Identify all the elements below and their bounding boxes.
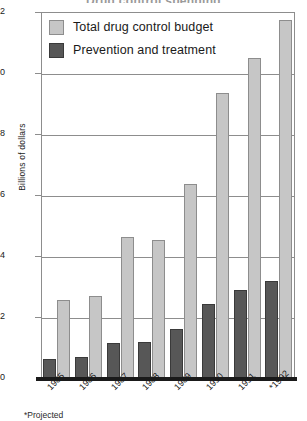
bar-total-drug-control-budget [184,184,197,378]
bar-total-drug-control-budget [248,58,261,378]
legend-item-prevention: Prevention and treatment [49,40,216,60]
y-axis-tick-label: 2 [0,311,5,321]
y-axis-tick-label: 6 [0,189,5,199]
bar-prevention-and-treatment [107,343,120,378]
chart-figure: Drug control spending Billions of dollar… [0,0,307,421]
bar-total-drug-control-budget [57,300,70,378]
bar-group [73,12,105,378]
bar-total-drug-control-budget [216,93,229,378]
bar-group [105,12,137,378]
bar-group [136,12,168,378]
bar-prevention-and-treatment [202,304,215,378]
bar-prevention-and-treatment [138,342,151,378]
bar-group [168,12,200,378]
bar-prevention-and-treatment [265,281,278,378]
bar-series-container [41,12,295,378]
bar-total-drug-control-budget [152,240,165,378]
bar-total-drug-control-budget [89,296,102,378]
bar-group [232,12,264,378]
y-axis-label: Billions of dollars [17,97,27,217]
bar-group [200,12,232,378]
legend-label-prevention: Prevention and treatment [73,43,216,57]
legend-label-total: Total drug control budget [73,20,213,34]
bar-prevention-and-treatment [234,290,247,378]
chart-title: Drug control spending [0,0,307,3]
chart-footnote: *Projected [24,410,63,420]
legend-item-total: Total drug control budget [49,17,216,37]
chart-legend: Total drug control budget Prevention and… [49,17,216,63]
bar-prevention-and-treatment [170,329,183,378]
bar-group [263,12,295,378]
bar-group [41,12,73,378]
legend-swatch-total-icon [49,20,64,35]
bar-total-drug-control-budget [279,20,292,378]
y-axis-tick-label: 8 [0,128,5,138]
y-axis-tick-label: 12 [0,6,5,16]
y-axis-tick-label: 0 [0,372,5,382]
y-axis-tick-label: 10 [0,67,5,77]
legend-swatch-prevention-icon [49,43,64,58]
x-axis-baseline [36,377,297,381]
y-axis-tick-label: 4 [0,250,5,260]
bar-total-drug-control-budget [121,237,134,378]
